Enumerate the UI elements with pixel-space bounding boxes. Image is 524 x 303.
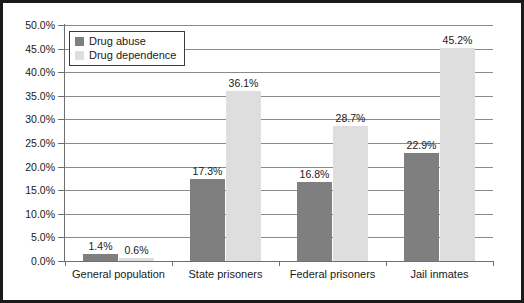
gridline: [65, 25, 493, 26]
legend-label-drug-abuse: Drug abuse: [89, 36, 146, 47]
y-axis-tick: [58, 261, 64, 262]
y-axis-labels: 50.0%45.0%40.0%35.0%30.0%25.0%20.0%15.0%…: [3, 3, 55, 303]
legend-swatch-icon-drug-dependence: [75, 51, 84, 60]
bar-drug-abuse: [404, 153, 439, 261]
x-axis-tick: [172, 261, 173, 266]
chart-legend: Drug abuse Drug dependence: [69, 31, 185, 66]
bar-drug-dependence: [226, 91, 261, 261]
x-axis-category-label: State prisoners: [172, 269, 279, 280]
x-axis-category-label: Jail inmates: [386, 269, 493, 280]
bar-value-label: 16.8%: [291, 169, 338, 180]
legend-label-drug-dependence: Drug dependence: [89, 50, 176, 61]
x-axis-tick: [279, 261, 280, 266]
legend-item-drug-abuse: Drug abuse: [75, 36, 176, 47]
legend-item-drug-dependence: Drug dependence: [75, 50, 176, 61]
bar-value-label: 22.9%: [398, 140, 445, 151]
y-axis-tick-label: 35.0%: [25, 91, 55, 102]
y-axis-tick-label: 15.0%: [25, 185, 55, 196]
chart-frame: 50.0%45.0%40.0%35.0%30.0%25.0%20.0%15.0%…: [0, 0, 524, 303]
bar-value-label: 36.1%: [220, 78, 267, 89]
bar-value-label: 45.2%: [434, 35, 481, 46]
x-axis-category-label: Federal prisoners: [279, 269, 386, 280]
y-axis-tick: [58, 72, 64, 73]
y-axis-tick: [58, 119, 64, 120]
y-axis-tick-label: 25.0%: [25, 138, 55, 149]
y-axis-tick: [58, 25, 64, 26]
bar-drug-abuse: [190, 179, 225, 261]
y-axis-tick-label: 20.0%: [25, 162, 55, 173]
y-axis-tick: [58, 190, 64, 191]
y-axis-tick: [58, 49, 64, 50]
bar-drug-dependence: [440, 48, 475, 261]
y-axis-tick-label: 45.0%: [25, 44, 55, 55]
gridline: [65, 96, 493, 97]
gridline: [65, 119, 493, 120]
bar-value-label: 0.6%: [113, 245, 160, 256]
y-axis-tick: [58, 214, 64, 215]
y-axis-tick-label: 5.0%: [31, 232, 55, 243]
bar-value-label: 17.3%: [184, 166, 231, 177]
legend-swatch-icon-drug-abuse: [75, 37, 84, 46]
bar-drug-abuse: [297, 182, 332, 261]
chart-plot-container: 50.0%45.0%40.0%35.0%30.0%25.0%20.0%15.0%…: [3, 3, 521, 300]
y-axis-tick-label: 30.0%: [25, 114, 55, 125]
y-axis-tick-label: 10.0%: [25, 209, 55, 220]
y-axis-tick: [58, 96, 64, 97]
y-axis-tick: [58, 167, 64, 168]
x-axis-tick: [65, 261, 66, 266]
x-axis-tick: [386, 261, 387, 266]
x-axis-category-label: General population: [65, 269, 172, 280]
y-axis-tick-label: 50.0%: [25, 20, 55, 31]
bar-value-label: 28.7%: [327, 113, 374, 124]
y-axis-tick-label: 0.0%: [31, 256, 55, 267]
x-axis-tick: [493, 261, 494, 266]
y-axis-tick: [58, 237, 64, 238]
bar-drug-dependence: [333, 126, 368, 261]
gridline: [65, 72, 493, 73]
y-axis-tick-label: 40.0%: [25, 67, 55, 78]
y-axis-tick: [58, 143, 64, 144]
